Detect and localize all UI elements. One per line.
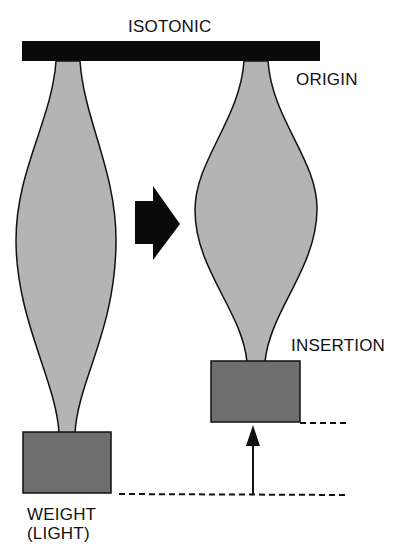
weight-sublabel: (LIGHT) <box>27 524 90 543</box>
origin-label: ORIGIN <box>296 70 358 89</box>
transition-arrow-icon <box>135 186 180 260</box>
weight-label: WEIGHT <box>27 505 96 524</box>
lower-reference-dashed-line <box>119 494 347 495</box>
relaxed-muscle <box>16 61 116 433</box>
insertion-label: INSERTION <box>291 336 385 355</box>
title-label: ISOTONIC <box>128 17 211 36</box>
left-weight <box>23 432 111 493</box>
contracted-muscle <box>195 61 317 362</box>
right-weight <box>211 361 300 422</box>
displacement-arrow-head-icon <box>246 425 260 446</box>
isotonic-bar <box>22 41 320 61</box>
